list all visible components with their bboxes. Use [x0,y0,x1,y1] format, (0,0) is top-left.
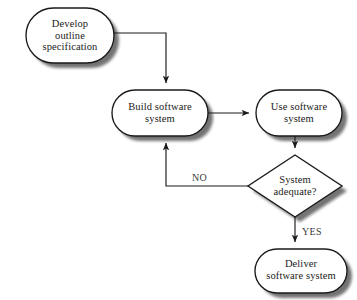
node-build-software-system[interactable] [112,90,208,136]
node-develop-outline-specification[interactable] [26,8,114,63]
edge-spec-to-build [114,33,166,83]
node-system-adequate[interactable] [248,155,342,217]
flowchart-canvas: Develop outline specification Build soft… [0,0,357,300]
node-deliver-software-system[interactable] [255,249,347,293]
flow-connectors [114,33,295,242]
node-outlines [26,8,347,293]
flowchart-svg [0,0,357,300]
edge-decision-to-build-no [166,143,248,186]
node-use-software-system[interactable] [256,90,342,136]
